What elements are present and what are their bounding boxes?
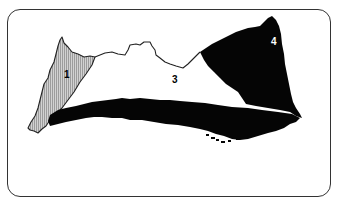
region-label-1: 1 xyxy=(64,69,70,80)
region-map: 1 3 4 xyxy=(0,0,340,206)
region-4-shape xyxy=(200,16,302,118)
region-label-3: 3 xyxy=(172,74,178,85)
region-label-4: 4 xyxy=(271,36,277,47)
region-4[interactable] xyxy=(200,16,302,118)
region-3[interactable] xyxy=(95,42,200,68)
region-3-outline xyxy=(95,42,200,68)
